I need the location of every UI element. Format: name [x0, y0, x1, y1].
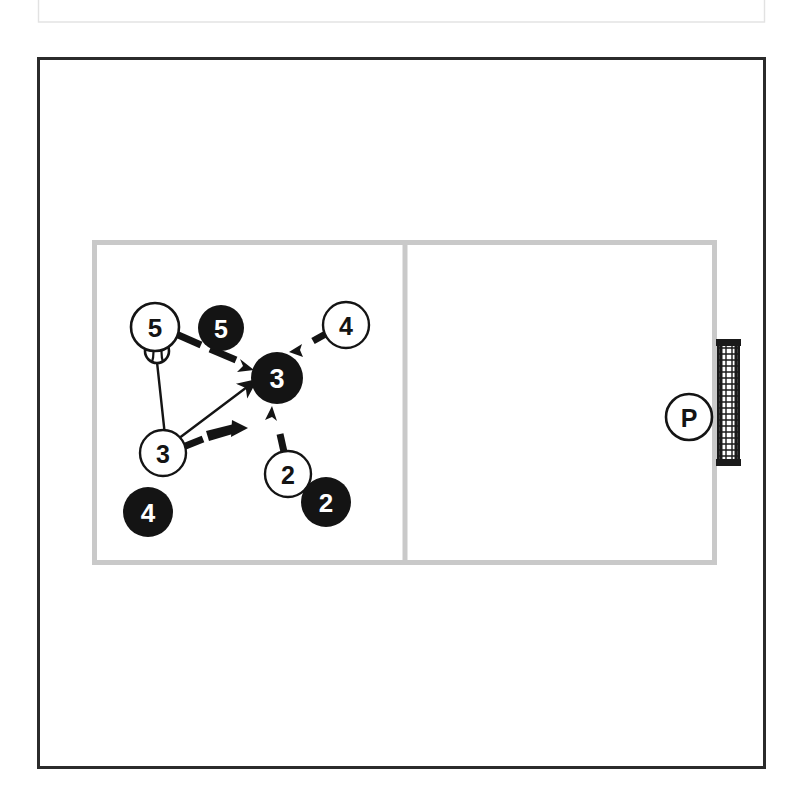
- player-marker-black-4-label: 4: [141, 498, 156, 528]
- movement-arrow-white3-right: [183, 420, 248, 447]
- outer-frame: [39, 59, 765, 768]
- play-diagram: 5 5 4 3 3 4 2 2: [0, 0, 809, 811]
- player-marker-white-p-label: P: [681, 404, 698, 432]
- net: [716, 339, 741, 466]
- player-marker-white-4-label: 4: [339, 312, 353, 340]
- player-marker-black-3[interactable]: 3: [251, 352, 303, 404]
- player-marker-white-2-label: 2: [281, 461, 295, 489]
- player-marker-black-5[interactable]: 5: [198, 305, 244, 351]
- player-marker-white-5[interactable]: 5: [131, 303, 179, 351]
- player-marker-black-5-label: 5: [214, 315, 228, 343]
- player-marker-white-p[interactable]: P: [666, 394, 712, 440]
- player-marker-black-2-label: 2: [319, 488, 333, 518]
- player-marker-black-3-label: 3: [269, 364, 284, 394]
- player-marker-black-2[interactable]: 2: [301, 477, 351, 527]
- player-marker-black-4[interactable]: 4: [123, 487, 173, 537]
- diagram-page: 5 5 4 3 3 4 2 2: [0, 0, 809, 811]
- top-thin-box: [39, 0, 765, 22]
- movement-arrow-2-to-3: [265, 406, 284, 452]
- player-marker-white-5-label: 5: [148, 313, 162, 343]
- player-marker-white-3[interactable]: 3: [140, 430, 186, 476]
- player-marker-white-3-label: 3: [156, 440, 170, 468]
- player-marker-white-4[interactable]: 4: [323, 302, 369, 348]
